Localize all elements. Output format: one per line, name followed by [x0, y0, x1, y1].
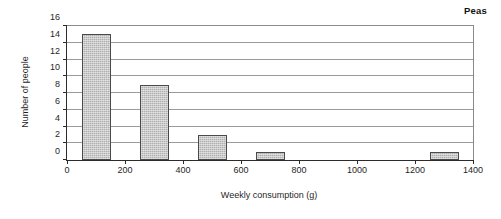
x-axis-tick [125, 160, 126, 164]
x-axis-tick-label: 1000 [347, 166, 367, 175]
y-axis-tick-label: 12 [50, 46, 60, 55]
y-axis-tick-label: 4 [55, 113, 60, 122]
gridline [67, 92, 473, 93]
gridline [67, 42, 473, 43]
x-axis-tick [415, 160, 416, 164]
y-axis-tick-label: 6 [55, 96, 60, 105]
bar [256, 152, 285, 160]
bar [140, 85, 169, 160]
y-axis-tick [63, 126, 67, 127]
x-axis-tick [299, 160, 300, 164]
gridline [67, 142, 473, 143]
x-axis-title: Weekly consumption (g) [66, 190, 472, 201]
x-axis-tick-label: 600 [233, 166, 248, 175]
x-axis-tick-label: 1200 [405, 166, 425, 175]
x-axis-tick-label: 200 [117, 166, 132, 175]
chart-figure: Peas 0246810121416 020040060080010001200… [0, 0, 501, 219]
x-axis-tick-label: 1400 [463, 166, 483, 175]
x-axis-tick [357, 160, 358, 164]
y-axis-tick [63, 109, 67, 110]
y-axis-tick-label: 10 [50, 63, 60, 72]
y-axis-tick [63, 25, 67, 26]
chart-title: Peas [464, 5, 487, 16]
y-axis-tick-label: 0 [55, 147, 60, 156]
bar [198, 135, 227, 160]
x-axis-tick [241, 160, 242, 164]
x-axis-tick [473, 160, 474, 164]
y-axis-tick [63, 42, 67, 43]
y-axis-tick [63, 142, 67, 143]
plot-area: 0246810121416 0200400600800100012001400 [66, 25, 474, 161]
y-axis-tick-label: 8 [55, 80, 60, 89]
y-axis-title: Number of people [19, 25, 31, 159]
y-axis-tick-label: 14 [50, 29, 60, 38]
gridline [67, 109, 473, 110]
y-axis-tick [63, 92, 67, 93]
gridline [67, 126, 473, 127]
y-axis-tick-label: 16 [50, 13, 60, 22]
y-axis-tick [63, 75, 67, 76]
gridline [67, 59, 473, 60]
x-axis-tick-label: 400 [175, 166, 190, 175]
x-axis-tick [183, 160, 184, 164]
gridline [67, 75, 473, 76]
y-axis-tick [63, 59, 67, 60]
x-axis-tick [67, 160, 68, 164]
x-axis-tick-label: 800 [291, 166, 306, 175]
bar [430, 152, 459, 160]
y-axis-tick-label: 2 [55, 130, 60, 139]
bar [82, 34, 111, 160]
x-axis-tick-label: 0 [64, 166, 69, 175]
